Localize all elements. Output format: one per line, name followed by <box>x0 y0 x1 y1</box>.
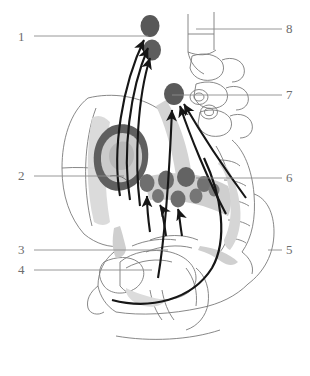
lymph-node-obturator-1 <box>171 191 186 208</box>
diagram-artwork <box>0 0 310 376</box>
lymph-node-iliac-5 <box>152 189 164 203</box>
lymph-node-para-aortic-2 <box>143 40 161 61</box>
arrow-to-iliac-node-1 <box>147 196 150 232</box>
label-4: 4 <box>18 263 25 276</box>
arrow-to-iliac-node-3 <box>178 209 182 236</box>
label-1: 1 <box>18 30 25 43</box>
lymph-node-common-iliac <box>164 83 184 105</box>
lymph-node-iliac-1 <box>140 174 155 192</box>
label-6: 6 <box>286 171 293 184</box>
anatomical-figure: 1 2 3 4 5 6 7 8 <box>0 0 310 376</box>
label-3: 3 <box>18 243 25 256</box>
label-5: 5 <box>286 243 293 256</box>
lymph-node-para-aortic-1 <box>141 15 160 37</box>
label-2: 2 <box>18 169 25 182</box>
leader-lines <box>34 29 282 270</box>
label-7: 7 <box>286 88 293 101</box>
label-8: 8 <box>286 22 293 35</box>
lymph-nodes <box>140 15 220 208</box>
lymph-node-iliac-3 <box>177 167 195 187</box>
lymph-node-obturator-2 <box>190 189 203 204</box>
lymph-node-iliac-2 <box>158 171 174 190</box>
